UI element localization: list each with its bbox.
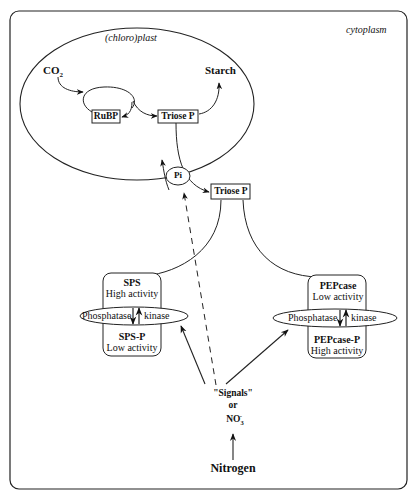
sps-kinase-label: kinase xyxy=(144,311,170,321)
triose-to-starch-arrow xyxy=(199,83,219,114)
pepcase-p-activity: High activity xyxy=(311,346,364,356)
triose-p-chloroplast-label: Triose P xyxy=(161,112,194,122)
cytoplasm-label: cytoplasm xyxy=(346,25,387,35)
sps-p-activity: Low activity xyxy=(107,343,158,353)
triose-to-pepcase-line xyxy=(243,200,318,277)
cycle-to-rubp-arrow xyxy=(122,102,132,117)
sps-phosphatase-label: Phosphatase xyxy=(82,311,131,321)
no3-text: NO xyxy=(226,414,240,424)
pepcase-activity: Low activity xyxy=(313,292,364,302)
cycle-to-triose-arrow xyxy=(133,101,157,116)
calvin-cycle-loop xyxy=(83,87,134,112)
triose-p-cytoplasm-label: Triose P xyxy=(214,187,247,197)
no3-superscript: - xyxy=(240,412,242,419)
or-label: or xyxy=(229,401,238,411)
pi-label: Pi xyxy=(174,171,182,180)
rubp-label: RuBP xyxy=(94,112,118,122)
co2-label: CO2 xyxy=(43,65,63,79)
sps-name: SPS xyxy=(123,278,140,288)
co2-text: CO xyxy=(43,64,60,76)
sps-p-name: SPS-P xyxy=(119,332,146,342)
starch-label: Starch xyxy=(205,65,236,76)
signal-to-pepcase-arrow xyxy=(226,330,288,384)
sps-activity: High activity xyxy=(106,289,159,299)
signal-to-sps-arrow xyxy=(181,326,205,384)
signals-label: "Signals" xyxy=(213,389,253,399)
signal-dashed-arrow xyxy=(184,193,216,385)
pepcase-name: PEPcase xyxy=(320,281,357,291)
chloroplast-label: (chloro)plast xyxy=(105,33,157,43)
no3-label: NO3- xyxy=(226,413,242,427)
co2-subscript: 2 xyxy=(60,71,64,79)
pepcase-phosphatase-label: Phosphatase xyxy=(288,313,337,323)
no3-subscript: 3 xyxy=(240,419,243,426)
triose-to-sps-line xyxy=(145,200,221,276)
chloroplast-envelope xyxy=(20,28,254,180)
cytoplasm-boundary xyxy=(10,11,407,489)
pepcase-p-name: PEPcase-P xyxy=(314,335,360,345)
pepcase-kinase-label: kinase xyxy=(351,313,377,323)
nitrogen-label: Nitrogen xyxy=(210,462,255,474)
co2-arrow xyxy=(58,77,83,92)
